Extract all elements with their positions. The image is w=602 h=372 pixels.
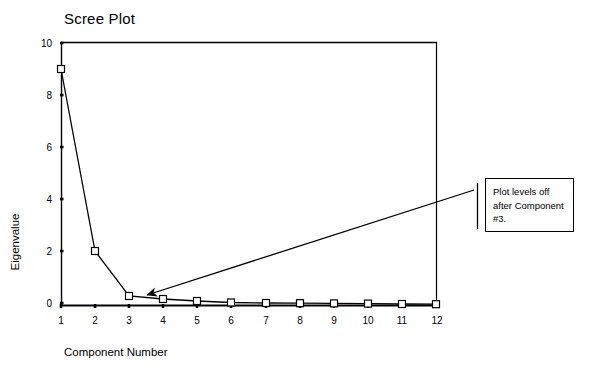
data-point-marker	[92, 248, 99, 255]
plot-frame	[61, 42, 437, 306]
data-point-marker	[331, 300, 338, 307]
annotation-line-3: #3.	[493, 212, 573, 226]
data-point-marker	[58, 66, 65, 73]
data-point-marker	[263, 300, 270, 307]
eigenvalue-series-line	[61, 69, 436, 304]
data-point-marker	[433, 301, 440, 308]
data-point-marker	[297, 300, 304, 307]
data-point-marker	[399, 301, 406, 308]
data-point-marker	[160, 296, 167, 303]
annotation-line-2: after Component	[493, 199, 573, 213]
data-point-marker	[126, 293, 133, 300]
scree-plot-figure: Scree Plot Eigenvalue Component Number 1…	[0, 0, 602, 372]
annotation-line-1: Plot levels off	[493, 185, 573, 199]
annotation-arrow	[147, 190, 474, 295]
data-point-marker	[228, 299, 235, 306]
annotation-leader	[147, 183, 478, 295]
eigenvalue-series-markers	[58, 66, 440, 308]
data-point-marker	[365, 300, 372, 307]
data-point-marker	[194, 298, 201, 305]
annotation-callout-box: Plot levels off after Component #3.	[485, 178, 574, 232]
